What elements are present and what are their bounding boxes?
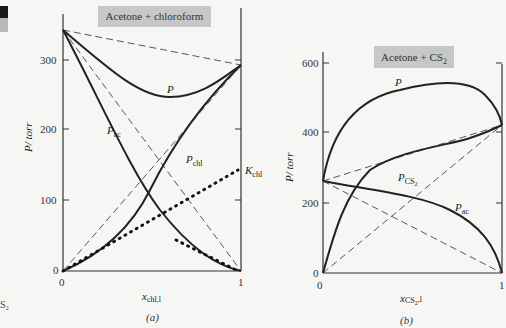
chart-a: 300 200 100 0 0 1 P/ torr xchl,l P Pac P… xyxy=(22,8,263,304)
chart-a-xtick-0: 0 xyxy=(59,276,65,288)
chart-b-ylabel: P/ torr xyxy=(283,152,295,183)
chart-a-raoult-chl xyxy=(63,65,241,271)
caption-b: (b) xyxy=(400,314,413,326)
chart-a-xlabel: xchl,l xyxy=(141,290,162,304)
chart-a-raoult-ac xyxy=(63,30,241,271)
chart-b-xlabel: xCS2,l xyxy=(399,292,423,306)
chart-a-label-P: P xyxy=(166,83,174,95)
charts-canvas: 300 200 100 0 0 1 P/ torr xchl,l P Pac P… xyxy=(0,0,506,328)
caption-a: (a) xyxy=(146,311,159,323)
chart-a-raoult-total xyxy=(63,30,241,65)
chart-a-label-Pac: Pac xyxy=(106,124,121,139)
chart-a-henry-Kchl xyxy=(63,170,238,271)
chart-b-xtick-1: 1 xyxy=(499,279,505,291)
chart-a-ytick-200: 200 xyxy=(40,123,57,135)
chart-a-ytick-100: 100 xyxy=(40,194,57,206)
chart-b-ytick-400: 400 xyxy=(302,126,319,138)
chart-b-ytick-600: 600 xyxy=(302,57,319,69)
chart-a-henry-ac xyxy=(176,240,238,271)
chart-a-xtick-1: 1 xyxy=(238,276,244,288)
chart-b-label-Pcs2: PCS2 xyxy=(397,171,418,187)
chart-b-xtick-0: 0 xyxy=(317,279,323,291)
chart-b-ytick-200: 200 xyxy=(302,197,319,209)
chart-a-label-Pchl: Pchl xyxy=(185,153,203,168)
chart-a-ytick-0: 0 xyxy=(53,264,59,276)
chart-b: 600 400 200 0 0 1 P/ torr xCS2,l P PCS2 … xyxy=(283,52,505,306)
chart-b-curve-P xyxy=(323,83,502,181)
chart-b-ytick-0: 0 xyxy=(313,267,319,279)
chart-b-label-P: P xyxy=(394,76,402,88)
chart-a-curve-P xyxy=(63,30,241,97)
chart-a-ylabel: P/ torr xyxy=(22,122,34,153)
chart-a-ytick-300: 300 xyxy=(40,54,57,66)
chart-a-label-Kchl: Kchl xyxy=(244,164,263,179)
